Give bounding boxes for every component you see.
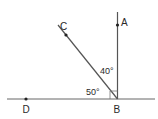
point-c-dot <box>64 33 67 36</box>
geometry-diagram: A C D B 40° 50° <box>0 0 158 119</box>
point-b-label: B <box>114 104 121 115</box>
point-d-dot <box>24 97 27 100</box>
point-c-label: C <box>60 21 67 32</box>
point-a-label: A <box>121 17 128 28</box>
point-d-label: D <box>23 104 30 115</box>
point-a-dot <box>116 23 119 26</box>
angle-cbd-label: 50° <box>86 87 100 97</box>
angle-abc-label: 40° <box>100 66 114 76</box>
